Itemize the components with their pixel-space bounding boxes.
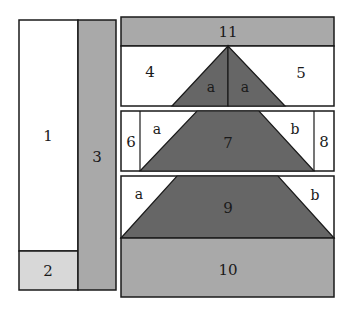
- row-4-5: 4 5 a a: [121, 46, 334, 106]
- label-5: 5: [296, 64, 306, 82]
- label-a-left: a: [207, 79, 215, 95]
- label-8: 8: [319, 133, 329, 151]
- label-6: 6: [126, 133, 136, 151]
- row-9-10: 9 10 a b: [121, 176, 334, 297]
- label-11: 11: [218, 23, 237, 41]
- label-2: 2: [43, 262, 53, 280]
- label-a-678: a: [153, 121, 161, 137]
- label-10: 10: [218, 261, 237, 279]
- label-a-910: a: [135, 186, 143, 202]
- label-7: 7: [223, 134, 233, 152]
- label-b-678: b: [291, 121, 300, 137]
- left-section: 1 2 3: [19, 20, 116, 290]
- row-11: 11: [121, 17, 334, 46]
- quilt-block-diagram: 1 2 3 11 4 5 a a 6 7 8 a b 9 10 a b: [0, 0, 356, 316]
- label-9: 9: [223, 199, 233, 217]
- label-3: 3: [92, 148, 102, 166]
- label-4: 4: [145, 63, 155, 81]
- label-1: 1: [43, 127, 53, 145]
- row-6-7-8: 6 7 8 a b: [121, 111, 334, 171]
- label-b-910: b: [311, 187, 320, 203]
- label-a-right: a: [241, 79, 249, 95]
